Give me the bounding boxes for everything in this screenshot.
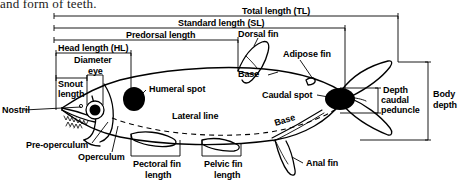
label-pelvic-fin: Pelvic fin xyxy=(204,159,243,169)
label-body-depth: depth xyxy=(433,100,457,110)
label-depth: Depth xyxy=(383,85,408,95)
label-pelvic-fin-length: length xyxy=(214,170,240,180)
label-pectoral-fin-length: length xyxy=(145,170,171,180)
label-pre-operculum: Pre-operculum xyxy=(26,140,88,150)
label-anal-fin: Anal fin xyxy=(306,158,338,168)
label-operculum: Operculum xyxy=(78,152,125,162)
label-body: Body xyxy=(433,89,455,99)
label-nostril: Nostril xyxy=(2,105,30,115)
leader-operculum xyxy=(112,126,118,152)
label-depth-peduncle: peduncle xyxy=(381,105,420,115)
label-total-length: Total length (TL) xyxy=(242,6,310,16)
label-diameter: Diameter xyxy=(74,55,112,65)
adipose-fin-outline xyxy=(306,78,315,85)
label-caudal-spot: Caudal spot xyxy=(262,90,312,100)
label-head-length: Head length (HL) xyxy=(58,43,128,53)
teeth xyxy=(64,116,88,128)
label-predorsal-length: Predorsal length xyxy=(126,30,195,40)
label-base-dorsal: Base xyxy=(238,69,259,79)
leader-dorsal-base xyxy=(268,72,278,75)
label-snout: Snout xyxy=(58,79,83,89)
eye xyxy=(86,101,104,119)
figure-container: and form of teeth. xyxy=(0,0,458,189)
label-humeral-spot: Humeral spot xyxy=(149,84,205,94)
label-adipose-fin: Adipose fin xyxy=(283,49,331,59)
leader-nostril xyxy=(24,107,81,110)
dorsal-fin-ray xyxy=(246,56,257,68)
label-depth-caudal: caudal xyxy=(381,95,409,105)
humeral-spot-marker xyxy=(123,87,145,111)
label-snout-length: length xyxy=(58,89,84,99)
label-standard-length: Standard length (SL) xyxy=(178,18,265,28)
bracket-pelvic-fin-length xyxy=(202,140,241,156)
label-pectoral-fin: Pectoral fin xyxy=(133,159,181,169)
eye-pupil xyxy=(90,105,101,116)
label-dorsal-fin: Dorsal fin xyxy=(238,29,279,39)
pectoral-fin-outline xyxy=(131,132,176,147)
label-eye: eye xyxy=(88,66,103,76)
label-lateral-line: Lateral line xyxy=(172,111,218,121)
